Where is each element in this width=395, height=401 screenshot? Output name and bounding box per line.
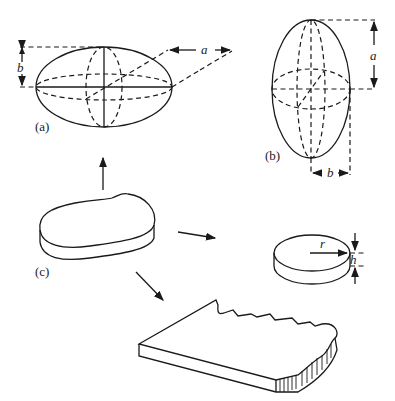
- arrow-to-disk: [178, 232, 215, 238]
- panel-label-b: (b): [265, 148, 280, 163]
- spheroid-b: [272, 20, 375, 175]
- particle-c: [40, 193, 155, 259]
- dim-label-r: r: [320, 236, 326, 251]
- dim-label-a-b: a: [370, 48, 377, 63]
- particle-shape-diagram: (a) b a (b) a b (c): [0, 0, 395, 401]
- dim-label-h: h: [350, 252, 357, 267]
- dim-label-b-a: b: [17, 60, 24, 75]
- panel-label-c: (c): [35, 264, 49, 279]
- dim-label-a-a: a: [201, 42, 208, 57]
- panel-label-a: (a): [35, 119, 49, 134]
- spheroid-a: [19, 47, 232, 127]
- dim-label-b-b: b: [327, 165, 334, 180]
- arrow-to-plate: [136, 272, 163, 300]
- plate: [139, 300, 337, 392]
